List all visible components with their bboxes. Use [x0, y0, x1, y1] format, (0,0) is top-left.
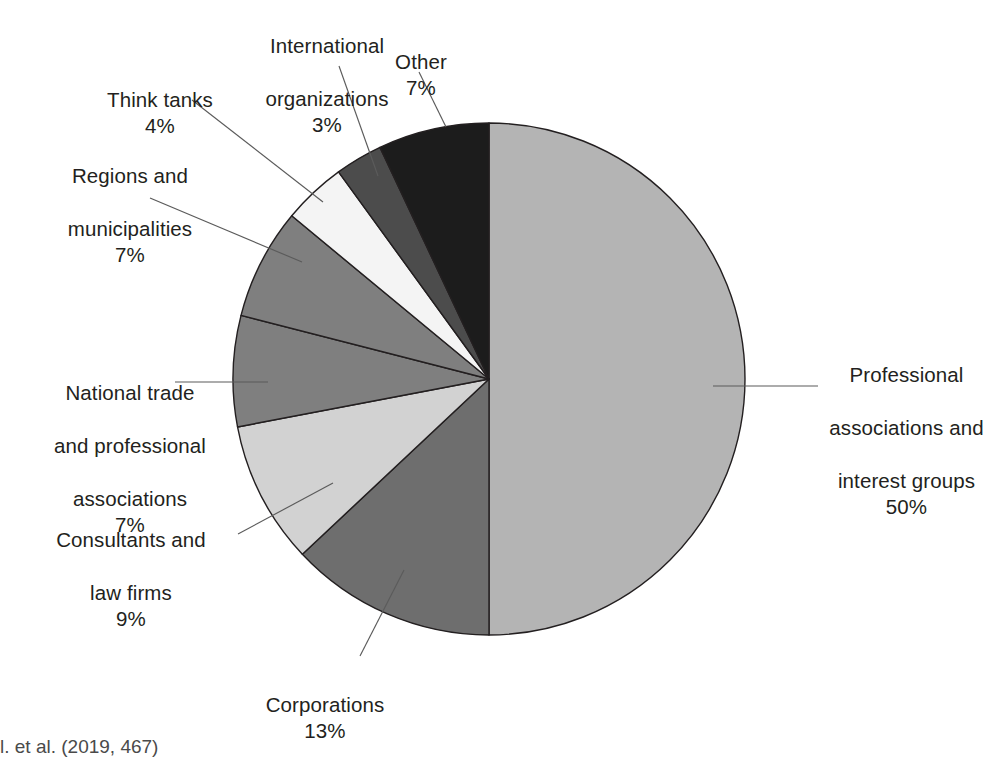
slice-label-other-line1: Other — [395, 50, 447, 73]
slice-label-professional-line3: interest groups — [838, 469, 975, 492]
slice-label-regions-line2: municipalities — [68, 217, 192, 240]
slice-percent-other: 7% — [355, 75, 487, 102]
slice-label-professional-line2: associations and — [829, 416, 983, 439]
pie-slices-group — [233, 123, 745, 635]
slice-label-other: Other 7% — [355, 22, 487, 128]
slice-label-professional: Professional associations and interest g… — [824, 335, 989, 547]
slice-label-national-trade-line1: National trade — [65, 381, 194, 404]
slice-percent-consultants: 9% — [0, 606, 262, 633]
slice-label-regions-line1: Regions and — [72, 164, 188, 187]
slice-label-national-trade-line2: and professional — [54, 434, 206, 457]
slice-label-regions: Regions and municipalities 7% — [0, 136, 260, 295]
slice-label-corporations: Corporations 13% — [200, 665, 450, 759]
slice-label-consultants-line2: law firms — [90, 581, 172, 604]
slice-label-think-tanks-line1: Think tanks — [107, 88, 213, 111]
slice-label-consultants-line1: Consultants and — [56, 528, 206, 551]
slice-percent-corporations: 13% — [200, 718, 450, 745]
pie-chart-figure: International organizations 3% Other 7% … — [0, 0, 989, 759]
pie-slice-professional[interactable] — [489, 123, 745, 635]
source-citation: l. et al. (2019, 467) — [0, 736, 158, 759]
slice-label-consultants: Consultants and law firms 9% — [0, 500, 262, 659]
slice-percent-professional: 50% — [824, 494, 989, 521]
slice-label-professional-line1: Professional — [849, 363, 963, 386]
slice-label-corporations-line1: Corporations — [266, 693, 385, 716]
slice-percent-regions: 7% — [0, 242, 260, 269]
